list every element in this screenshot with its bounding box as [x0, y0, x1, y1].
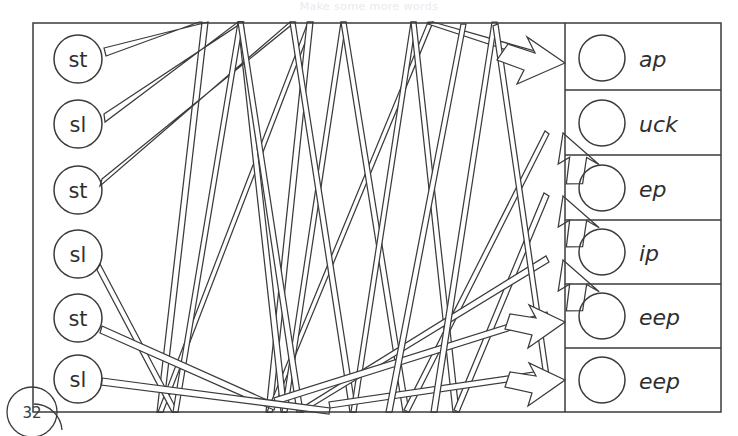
blend-label: st [68, 179, 87, 203]
blend-item[interactable]: st [54, 166, 102, 214]
ending-circle [579, 229, 625, 275]
worksheet-diagram: .ink { stroke:#3b3b3b; fill:none; stroke… [0, 0, 738, 436]
blend-label: sl [70, 243, 87, 267]
arrowhead-icon [539, 130, 600, 192]
ending-circle [579, 100, 625, 146]
ending-label: eep [639, 305, 680, 330]
ending-label: uck [639, 112, 679, 137]
ending-label: ip [639, 241, 659, 266]
page-number-badge: 32 [7, 387, 62, 436]
blend-label: st [68, 307, 87, 331]
arrowhead-icon [505, 363, 565, 406]
blend-item[interactable]: sl [54, 230, 102, 278]
ending-circle [579, 293, 625, 339]
blend-item[interactable]: st [54, 294, 102, 342]
blend-item[interactable]: sl [54, 100, 102, 148]
blend-item[interactable]: sl [54, 355, 102, 403]
connector-path [101, 370, 549, 414]
blend-label: st [68, 48, 87, 72]
ending-item[interactable]: eep [579, 293, 680, 339]
arrowhead-layer [497, 37, 601, 406]
ending-circle [579, 165, 625, 211]
ending-circle [579, 35, 625, 81]
arrowhead-icon [505, 305, 565, 348]
ending-label: eep [639, 369, 680, 394]
arrowhead-icon [539, 257, 600, 319]
page-number: 32 [22, 404, 41, 422]
blend-item[interactable]: st [54, 35, 102, 83]
ending-item[interactable]: ap [579, 35, 666, 81]
ending-item[interactable]: eep [579, 357, 680, 403]
ending-label: ap [639, 47, 666, 72]
worksheet-page: Make some more words .ink { stroke:#3b3b… [0, 0, 738, 436]
ending-label: ep [639, 177, 667, 202]
blend-label: sl [70, 113, 87, 137]
blend-label: sl [70, 368, 87, 392]
connector-layer [97, 22, 552, 414]
ending-item[interactable]: ip [579, 229, 659, 275]
left-column: st sl st sl st sl [54, 35, 102, 403]
ending-item[interactable]: uck [579, 100, 679, 146]
ending-circle [579, 357, 625, 403]
ending-item[interactable]: ep [579, 165, 667, 211]
arrowhead-icon [539, 193, 600, 255]
